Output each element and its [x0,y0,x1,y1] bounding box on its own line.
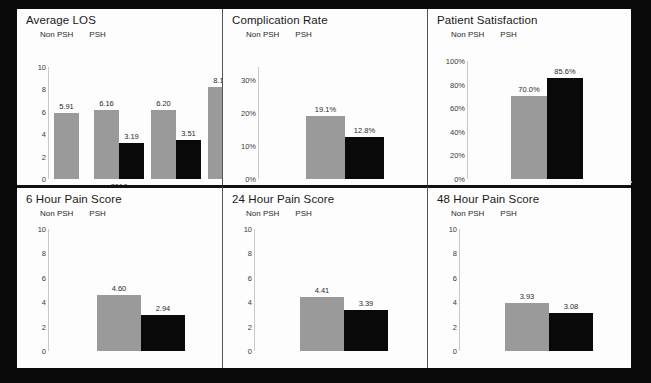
plot-area: 10 8 6 4 2 0 5.91 6.16 3.19 [50,67,213,179]
y-axis-line [48,67,49,179]
y-tick: 6 [453,273,457,282]
panel-title: 24 Hour Pain Score [232,193,334,205]
bar-psh: 3.08 [549,313,593,351]
y-tick: 30% [241,76,256,85]
y-tick: 10 [449,225,457,234]
y-axis-line [467,61,468,179]
y-tick: 20% [241,109,256,118]
panel-title: 48 Hour Pain Score [437,193,539,205]
bar-value-label: 8.18 [213,76,222,85]
bar-value-label: 4.60 [112,284,127,293]
legend-label-non-psh: Non PSH [451,30,484,39]
legend: Non PSHPSH [40,30,106,39]
legend-label-non-psh: Non PSH [40,30,73,39]
bar-value-label: 3.93 [520,292,535,301]
bar-value-label: 3.19 [124,132,139,141]
y-tick: 60% [450,104,465,113]
y-tick: 8 [42,85,46,94]
bar-value-label: 6.20 [156,99,171,108]
y-tick: 0% [454,175,465,184]
bar-value-label: 12.8% [354,126,375,135]
y-tick: 4 [453,298,457,307]
bar-value-label: 3.39 [359,299,374,308]
legend-label-non-psh: Non PSH [246,30,279,39]
y-tick: 4 [42,130,46,139]
y-tick: 2 [453,322,457,331]
legend-label-non-psh: Non PSH [246,209,279,218]
plot-area: 100% 80% 60% 40% 20% 0% 70.0% 85.6% [469,61,615,179]
bar-non-psh: 5.91 [54,113,79,179]
bar-value-label: 70.0% [518,85,539,94]
panel-title: Average LOS [26,14,96,26]
panel-pain-score-48h: 48 Hour Pain Score Non PSHPSH 10 8 6 4 2… [427,185,631,368]
legend: Non PSHPSH [40,209,106,218]
legend: Non PSHPSH [451,30,517,39]
bar-psh: 3.39 [344,310,388,351]
bar-non-psh: 8.18 [208,87,222,179]
y-axis-line [254,229,255,351]
y-tick: 6 [42,273,46,282]
panel-complication-rate: Complication Rate Non PSHPSH 30% 20% 10%… [222,9,427,185]
bar-non-psh: 19.1% [306,116,345,179]
bar-value-label: 4.41 [315,286,330,295]
y-tick: 0 [42,175,46,184]
bar-value-label: 5.91 [59,102,74,111]
legend-label-non-psh: Non PSH [40,209,73,218]
panel-title: Complication Rate [232,14,328,26]
y-tick: 8 [248,249,252,258]
y-tick: 80% [450,80,465,89]
plot-area: 10 8 6 4 2 0 4.60 2.94 [50,229,213,351]
panel-pain-score-6h: 6 Hour Pain Score Non PSHPSH 10 8 6 4 2 … [17,185,222,368]
legend-label-non-psh: Non PSH [451,209,484,218]
y-tick: 4 [42,298,46,307]
y-tick: 2 [42,322,46,331]
panel-pain-score-24h: 24 Hour Pain Score Non PSHPSH 10 8 6 4 2… [222,185,427,368]
bar-psh: 3.19 [119,143,144,179]
legend-label-psh: PSH [500,209,516,218]
y-tick: 10 [244,225,252,234]
legend-label-psh: PSH [500,30,516,39]
bar-non-psh: 6.20 [151,110,176,179]
bar-psh: 85.6% [547,78,583,179]
panel-title: 6 Hour Pain Score [26,193,122,205]
y-tick: 10 [38,63,46,72]
plot-area: 10 8 6 4 2 0 3.93 3.08 [461,229,621,351]
bar-non-psh: 3.93 [505,303,549,351]
dust-speck [630,181,632,183]
bar-non-psh: 6.16 [94,110,119,179]
y-tick: 2 [42,152,46,161]
legend: Non PSHPSH [246,209,312,218]
y-axis-line [48,229,49,351]
bar-non-psh: 70.0% [511,96,547,179]
legend-label-psh: PSH [89,30,105,39]
plot-area: 30% 20% 10% 0% 19.1% 12.8% [260,67,410,179]
y-tick: 0 [42,347,46,356]
y-tick: 6 [248,273,252,282]
y-tick: 10 [38,225,46,234]
y-tick: 40% [450,127,465,136]
bar-psh: 12.8% [345,137,384,179]
y-tick: 8 [453,249,457,258]
y-tick: 6 [42,107,46,116]
bar-psh: 2.94 [141,315,185,351]
y-axis-line [258,67,259,179]
legend-label-psh: PSH [89,209,105,218]
y-tick: 4 [248,298,252,307]
bar-non-psh: 4.60 [97,295,141,351]
y-tick: 10% [241,142,256,151]
y-tick: 0 [248,347,252,356]
chart-grid: Average LOS Non PSHPSH 10 8 6 4 2 0 5.91 [17,9,631,368]
bar-non-psh: 4.41 [300,297,344,351]
bar-value-label: 3.08 [564,302,579,311]
y-tick: 0% [245,175,256,184]
panel-average-los: Average LOS Non PSHPSH 10 8 6 4 2 0 5.91 [17,9,222,185]
bar-value-label: 6.16 [99,99,114,108]
bar-value-label: 19.1% [315,105,336,114]
bar-value-label: 85.6% [554,67,575,76]
y-tick: 2 [248,322,252,331]
y-tick: 8 [42,249,46,258]
bar-psh: 3.51 [176,140,201,179]
bar-value-label: 3.51 [181,129,196,138]
panel-title: Patient Satisfaction [437,14,537,26]
legend: Non PSHPSH [246,30,312,39]
